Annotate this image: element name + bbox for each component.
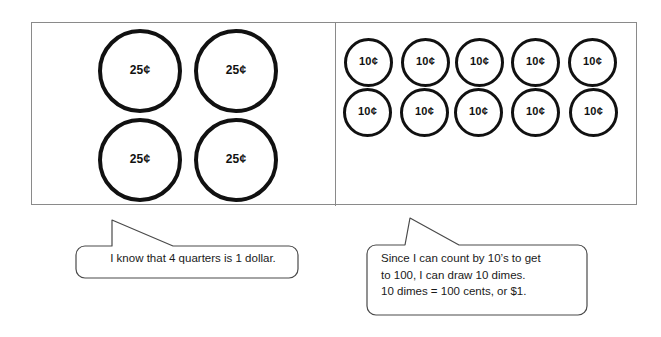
dime-coin: 10¢ [400,88,449,137]
callout-quarters-shape [76,216,306,282]
dime-coin-label: 10¢ [469,106,488,117]
quarter-coin-label: 25¢ [130,153,151,165]
panel-divider [335,23,336,206]
dime-coin: 10¢ [568,38,617,87]
dime-coin-label: 10¢ [416,56,435,67]
dime-coin: 10¢ [455,38,504,87]
dime-coin-label: 10¢ [470,56,489,67]
dime-coin: 10¢ [454,88,503,137]
dime-coin-label: 10¢ [584,106,603,117]
dime-coin-label: 10¢ [526,56,545,67]
dime-coin: 10¢ [343,88,392,137]
work-area-frame: 25¢ 25¢ 25¢ 25¢ 10¢ 10¢ 10¢ 10 [31,22,637,205]
quarter-coin: 25¢ [98,29,182,113]
dime-coin-label: 10¢ [359,56,378,67]
dime-coin: 10¢ [511,38,560,87]
quarter-coin: 25¢ [194,29,278,113]
callout-quarters: I know that 4 quarters is 1 dollar. [76,216,306,282]
dime-coin-label: 10¢ [583,56,602,67]
quarter-coin-label: 25¢ [226,64,247,76]
dime-coin: 10¢ [511,88,560,137]
callout-dimes-text: Since I can count by 10’s to get to 100,… [381,250,587,300]
dime-coin-label: 10¢ [358,106,377,117]
worksheet-canvas: 25¢ 25¢ 25¢ 25¢ 10¢ 10¢ 10¢ 10 [0,0,661,337]
callout-quarters-text: I know that 4 quarters is 1 dollar. [90,250,296,267]
dime-coin: 10¢ [401,38,450,87]
dime-coin-label: 10¢ [415,106,434,117]
callout-dimes: Since I can count by 10’s to get to 100,… [367,214,595,318]
quarter-coin-label: 25¢ [130,64,151,76]
dime-coin: 10¢ [569,88,618,137]
quarter-coin-label: 25¢ [226,153,247,165]
quarter-coin: 25¢ [194,118,278,202]
dime-coin: 10¢ [344,38,393,87]
quarter-coin: 25¢ [98,118,182,202]
dime-coin-label: 10¢ [526,106,545,117]
